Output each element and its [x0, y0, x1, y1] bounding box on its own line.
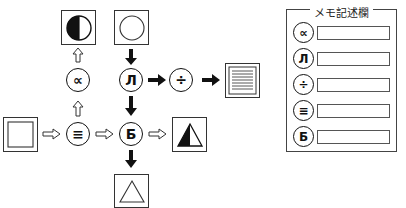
memo-symbol: Б [299, 131, 308, 143]
proportional-node: ∝ [293, 22, 314, 43]
memo-field-pulse[interactable] [317, 52, 390, 66]
memo-field-be[interactable] [317, 130, 390, 144]
memo-row-triple-bar: ≡ [293, 100, 390, 121]
solid-arrow-right-icon [202, 74, 220, 86]
memo-symbol: Л [299, 53, 309, 65]
memo-symbol: ÷ [298, 79, 308, 91]
solid-arrow-down-icon [125, 49, 137, 65]
triple-bar-node: ≡ [293, 100, 314, 121]
memo-row-be: Б [293, 126, 390, 147]
be-node: Б [293, 126, 314, 147]
memo-row-divide: ÷ [293, 74, 390, 95]
outline-arrow-right-icon [149, 129, 166, 139]
outline-arrow-up-icon [73, 101, 83, 116]
memo-field-divide[interactable] [317, 78, 390, 92]
memo-panel: メモ記述欄 ∝ Л ÷ ≡ Б [286, 9, 397, 152]
outline-arrow-right-icon [43, 129, 60, 139]
memo-field-proportional[interactable] [317, 26, 390, 40]
pulse-node: Л [293, 48, 314, 69]
solid-arrow-down-icon [125, 150, 137, 168]
memo-symbol: ∝ [299, 27, 308, 39]
memo-row-proportional: ∝ [293, 22, 390, 43]
outline-arrow-up-icon [73, 48, 83, 62]
solid-arrow-right-icon [148, 74, 166, 86]
memo-symbol: ≡ [298, 105, 308, 117]
solid-arrow-down-icon [125, 96, 137, 116]
divide-node: ÷ [293, 74, 314, 95]
memo-title: メモ記述欄 [287, 2, 396, 21]
memo-title-text: メモ記述欄 [310, 7, 373, 20]
memo-field-triple-bar[interactable] [317, 104, 390, 118]
memo-row-pulse: Л [293, 48, 390, 69]
outline-arrow-right-icon [96, 129, 113, 139]
